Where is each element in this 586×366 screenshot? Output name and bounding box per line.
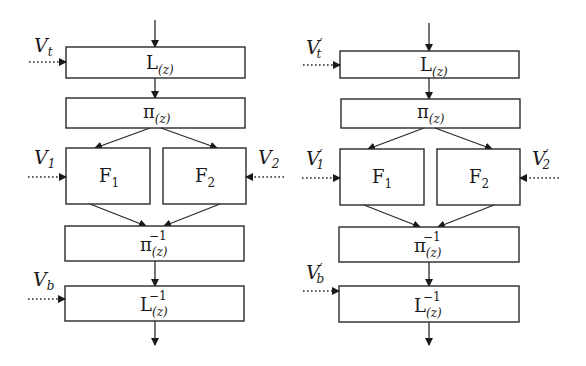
inverse-lifting-block: L(z) −1 [339,286,519,322]
input-vt-prime: V′t [303,36,340,65]
lifting-block: L(z) [340,51,519,79]
vt-label: Vt [34,34,53,59]
input-vb-prime: V′b [303,261,339,291]
permutation-block: π(z) [66,98,245,128]
v1-label: V1 [34,146,55,171]
right-diagram: L(z) π(z) F1 F2 π(z) −1 L(z) −1 [302,23,559,345]
inverse-lifting-sup: −1 [423,290,441,304]
left-diagram: L(z) π(z) F1 F2 π(z) −1 [28,20,284,345]
diagram-canvas: L(z) π(z) F1 F2 π(z) −1 [0,0,586,366]
f1-block: F1 [66,148,150,204]
arrow-pi-to-f1 [95,128,150,148]
arrow-pi-to-f1 [368,128,424,149]
inverse-lifting-sup: −1 [149,289,167,303]
v2-label: V2 [258,146,279,171]
input-v2-prime: V′2 [520,147,559,178]
vb-prime-label: V′b [306,261,324,286]
input-v1: V1 [28,146,66,177]
arrow-f2-to-invpi [438,205,494,227]
v1-prime-label: V′1 [306,147,324,172]
f1-block: F1 [340,149,424,205]
arrow-f2-to-invpi [164,204,220,226]
v2-prime-label: V′2 [532,147,550,172]
f2-block: F2 [163,148,246,204]
arrow-f1-to-invpi [364,205,420,227]
inverse-permutation-sup: −1 [149,229,167,243]
input-vb: Vb [28,268,65,299]
arrow-pi-to-f2 [435,128,492,149]
f2-block: F2 [437,149,520,205]
lifting-block: L(z) [66,47,245,78]
arrow-f1-to-invpi [90,204,146,226]
input-v1-prime: V′1 [302,147,340,178]
vt-prime-label: V′t [306,36,323,61]
permutation-block: π(z) [341,99,520,128]
inverse-permutation-block: π(z) −1 [339,227,519,262]
vb-label: Vb [33,268,54,293]
inverse-lifting-block: L(z) −1 [65,286,244,321]
inverse-permutation-sup: −1 [423,230,441,244]
input-v2: V2 [246,146,284,177]
input-vt: Vt [29,34,66,62]
inverse-permutation-block: π(z) −1 [65,226,244,261]
arrow-pi-to-f2 [161,128,217,148]
